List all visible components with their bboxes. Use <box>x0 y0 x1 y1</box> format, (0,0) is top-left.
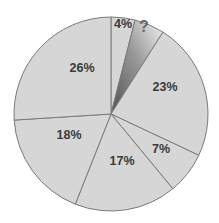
slice-label: 26% <box>69 61 94 75</box>
unknown-slice-label: ? <box>139 18 149 35</box>
slice-label: 23% <box>152 80 177 94</box>
pie-slice-26 <box>14 17 111 120</box>
slice-label: 7% <box>152 142 170 156</box>
pie-chart: 4%?23%7%17%18%26% <box>0 0 219 223</box>
pie-slices <box>14 17 208 211</box>
slice-label: 18% <box>56 128 81 142</box>
slice-label: 17% <box>109 154 134 168</box>
slice-label: 4% <box>114 17 132 31</box>
